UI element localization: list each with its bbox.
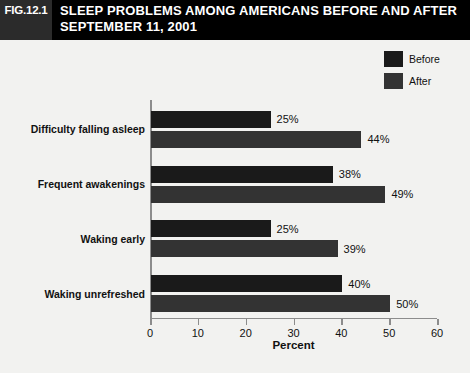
x-tick-label: 20 [240, 327, 252, 339]
chart-legend: BeforeAfter [384, 51, 470, 95]
x-tick [150, 319, 152, 325]
bar [151, 166, 333, 183]
bar [151, 275, 342, 292]
category-axis-labels: Difficulty falling asleepFrequent awaken… [0, 100, 150, 319]
x-tick-label: 0 [147, 327, 153, 339]
figure-title-line-2: SEPTEMBER 11, 2001 [60, 19, 470, 35]
x-tick-label: 30 [287, 327, 299, 339]
bar-value-label: 49% [391, 188, 413, 200]
bar [151, 131, 361, 148]
bar-value-label: 25% [277, 223, 299, 235]
figure-number-tag: FIG.12.1 [0, 0, 52, 40]
bar-value-label: 39% [344, 243, 366, 255]
figure-title: SLEEP PROBLEMS AMONG AMERICANS BEFORE AN… [52, 0, 470, 40]
x-tick [341, 319, 343, 325]
x-tick-label: 60 [431, 327, 443, 339]
x-axis-title: Percent [150, 339, 437, 351]
figure-title-line-1: SLEEP PROBLEMS AMONG AMERICANS BEFORE AN… [60, 3, 457, 18]
bar-value-label: 25% [277, 113, 299, 125]
legend-swatch-before [384, 51, 403, 67]
category-label: Waking early [5, 233, 150, 245]
bar-value-label: 38% [339, 168, 361, 180]
legend-swatch-after [384, 73, 403, 89]
category-label: Frequent awakenings [5, 178, 150, 190]
figure-header: FIG.12.1 SLEEP PROBLEMS AMONG AMERICANS … [0, 0, 470, 40]
legend-item-after: After [384, 73, 470, 89]
legend-label-before: Before [409, 51, 440, 67]
bar-value-label: 40% [348, 278, 370, 290]
bar [151, 295, 390, 312]
bar [151, 220, 271, 237]
bar-value-label: 44% [367, 133, 389, 145]
bar [151, 240, 338, 257]
x-tick-label: 40 [335, 327, 347, 339]
x-tick [198, 319, 200, 325]
bar-value-label: 50% [396, 298, 418, 310]
category-label: Difficulty falling asleep [5, 123, 150, 135]
x-tick [246, 319, 248, 325]
legend-item-before: Before [384, 51, 470, 67]
legend-label-after: After [409, 73, 431, 89]
bar [151, 111, 271, 128]
x-tick-label: 50 [383, 327, 395, 339]
bar [151, 186, 385, 203]
x-tick [437, 319, 439, 325]
x-tick-label: 10 [192, 327, 204, 339]
x-tick [294, 319, 296, 325]
category-label: Waking unrefreshed [5, 288, 150, 300]
plot-area: 25%44%38%49%25%39%40%50% [150, 100, 437, 319]
x-tick [389, 319, 391, 325]
